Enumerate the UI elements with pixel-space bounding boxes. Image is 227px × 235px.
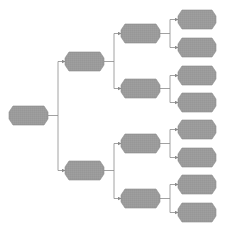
tree-node-l3-e [178,120,216,139]
node-layer [9,10,216,222]
tree-node-l1-b [65,161,104,180]
tree-node-l3-d [178,93,216,112]
tree-node-l3-h [178,203,216,222]
tree-node-root [9,106,48,125]
node-shape [121,24,160,43]
node-shape [65,161,104,180]
node-shape [121,189,160,208]
tree-node-l2-b [121,79,160,98]
tree-node-l3-f [178,148,216,167]
tree-node-l2-c [121,134,160,153]
node-shape [178,66,216,85]
tree-node-l3-a [178,10,216,29]
connector-layer [48,20,178,213]
node-shape [121,79,160,98]
node-shape [178,10,216,29]
tree-node-l3-g [178,175,216,194]
node-shape [9,106,48,125]
node-shape [65,52,104,71]
node-shape [178,148,216,167]
node-shape [178,93,216,112]
node-shape [178,38,216,57]
node-shape [178,203,216,222]
tree-diagram [0,0,227,235]
tree-node-l1-a [65,52,104,71]
node-shape [178,120,216,139]
tree-node-l2-a [121,24,160,43]
node-shape [121,134,160,153]
tree-node-l3-b [178,38,216,57]
tree-node-l2-d [121,189,160,208]
tree-node-l3-c [178,66,216,85]
node-shape [178,175,216,194]
